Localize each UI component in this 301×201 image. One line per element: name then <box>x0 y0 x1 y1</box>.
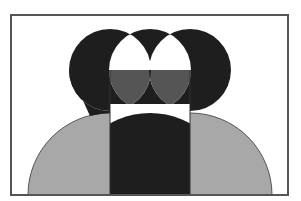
geometric-figure <box>0 0 301 201</box>
figure-canvas <box>0 0 301 201</box>
